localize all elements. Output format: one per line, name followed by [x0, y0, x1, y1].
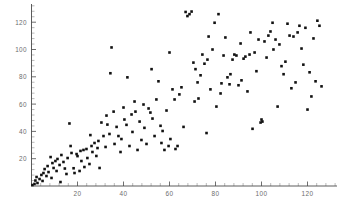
data-point	[126, 76, 129, 79]
data-point	[180, 86, 183, 89]
data-point	[91, 151, 94, 154]
x-tick-label: 20	[74, 190, 82, 197]
data-point	[231, 58, 234, 61]
data-point	[50, 177, 53, 180]
data-point	[269, 30, 272, 33]
data-point	[235, 54, 238, 57]
data-point	[284, 60, 287, 63]
data-point	[149, 111, 152, 114]
data-point	[302, 63, 305, 66]
data-point	[73, 172, 76, 175]
data-point	[316, 19, 319, 22]
data-point	[109, 72, 112, 75]
data-point	[173, 98, 176, 101]
x-tick-label: 40	[120, 190, 128, 197]
data-point	[36, 182, 39, 185]
data-point	[41, 180, 44, 183]
data-point	[46, 165, 49, 168]
y-tick-label: 80	[19, 73, 27, 80]
data-point	[100, 121, 103, 124]
data-point	[108, 133, 111, 136]
data-point	[110, 46, 113, 49]
data-point	[43, 168, 46, 171]
data-point	[97, 140, 100, 143]
data-point	[117, 135, 120, 138]
data-point	[79, 150, 82, 153]
data-point	[163, 149, 166, 152]
data-point	[306, 108, 309, 111]
data-point	[59, 181, 62, 184]
data-point	[263, 40, 266, 43]
data-points-layer	[31, 10, 323, 186]
data-point	[89, 134, 92, 137]
y-axis-tick-labels: 20406080100120	[15, 19, 27, 163]
data-point	[83, 166, 86, 169]
data-point	[261, 120, 264, 123]
data-point	[33, 183, 36, 186]
data-point	[58, 164, 61, 167]
data-point	[60, 154, 63, 157]
data-point	[65, 173, 68, 176]
data-point	[90, 145, 93, 148]
data-point	[122, 106, 125, 109]
data-point	[201, 53, 204, 56]
data-point	[219, 92, 222, 95]
data-point	[143, 127, 146, 130]
data-point	[248, 53, 251, 56]
y-axis-minor-ticks	[32, 6, 35, 181]
data-point	[282, 73, 285, 76]
data-point	[211, 48, 214, 51]
data-point	[320, 85, 323, 88]
data-point	[142, 103, 145, 106]
data-point	[314, 80, 317, 83]
data-point	[38, 178, 41, 181]
data-point	[278, 43, 281, 46]
data-point	[95, 155, 98, 158]
data-point	[207, 35, 210, 38]
data-point	[296, 31, 299, 34]
data-point	[274, 38, 277, 41]
data-point	[226, 76, 229, 79]
data-point	[78, 170, 81, 173]
data-point	[182, 126, 185, 129]
x-axis-tick-labels: 20406080100120	[74, 190, 314, 197]
data-point	[265, 56, 268, 59]
data-point	[138, 120, 141, 123]
data-point	[157, 80, 160, 83]
data-point	[246, 90, 249, 93]
data-point	[136, 149, 139, 152]
data-point	[168, 51, 171, 54]
data-point	[66, 157, 69, 160]
x-tick-label: 80	[212, 190, 220, 197]
data-point	[160, 142, 163, 145]
data-point	[106, 123, 109, 126]
scatter-plot-canvas: 20406080100120 20406080100120	[0, 0, 339, 209]
data-point	[153, 135, 156, 138]
data-point	[209, 88, 212, 91]
data-point	[244, 55, 247, 58]
data-point	[184, 11, 187, 14]
data-point	[49, 156, 52, 159]
data-point	[112, 110, 115, 113]
data-point	[174, 148, 177, 151]
x-tick-label: 100	[256, 190, 268, 197]
data-point	[93, 142, 96, 145]
data-point	[288, 34, 291, 37]
data-point	[249, 31, 252, 34]
data-point	[228, 83, 231, 86]
y-axis-major-ticks	[32, 22, 37, 159]
data-point	[47, 171, 50, 174]
data-point	[147, 107, 150, 110]
y-tick-label: 100	[15, 46, 27, 53]
scatter-plot-figure: 20406080100120 20406080100120	[0, 0, 339, 209]
data-point	[161, 130, 164, 133]
data-point	[253, 51, 256, 54]
data-point	[222, 54, 225, 57]
data-point	[165, 109, 168, 112]
data-point	[131, 131, 134, 134]
data-point	[224, 36, 227, 39]
data-point	[229, 73, 232, 76]
data-point	[85, 148, 88, 151]
data-point	[176, 145, 179, 148]
data-point	[64, 167, 67, 170]
